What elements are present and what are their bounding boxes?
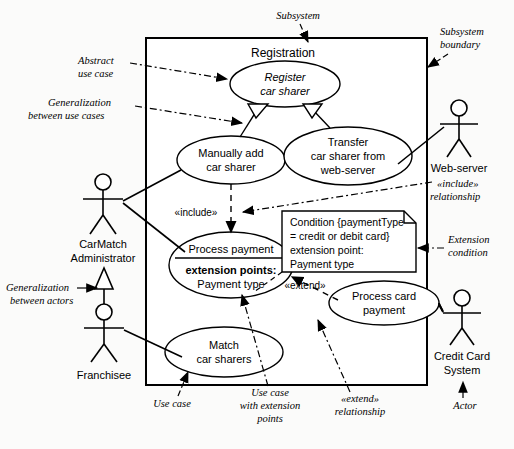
annotation-line-1: Actor: [452, 400, 477, 411]
use-case-label-line-1: Transfer: [328, 136, 369, 148]
annotation-line-1: Generalization: [48, 97, 111, 108]
annotation-line-2: relationship: [430, 191, 480, 202]
actor-head: [96, 304, 112, 320]
actor-leg-left: [450, 328, 462, 345]
actor-label-line-1: Franchisee: [77, 369, 131, 381]
actor-leg-right: [462, 328, 474, 345]
actor-carmatch-administrator[interactable]: CarMatch Administrator: [71, 174, 136, 264]
annotation-line-1: Use case: [153, 398, 191, 409]
actor-label-line-2: Administrator: [71, 252, 136, 264]
actor-credit-card-system[interactable]: Credit Card System: [434, 290, 490, 376]
usecase-diagram-canvas: Registration Register car sharer Manuall…: [0, 0, 514, 449]
actor-web-server[interactable]: Web-server: [431, 100, 488, 174]
actor-leg-left: [447, 139, 459, 157]
use-case-label-line-1: Process card: [352, 290, 416, 302]
annotation-line-1: Generalization: [6, 282, 69, 293]
annotation-line-1: Use case: [251, 387, 289, 398]
diagram-svg: Registration Register car sharer Manuall…: [0, 0, 514, 449]
use-case-match-car-sharers[interactable]: Match car sharers: [165, 327, 283, 377]
actor-label-line-2: System: [444, 364, 481, 376]
annotation-line-1: «extend»: [341, 393, 379, 404]
annotation-line-2: relationship: [335, 406, 385, 417]
use-case-label-line-1: Manually add: [198, 147, 263, 159]
actor-head: [451, 100, 467, 116]
actor-label-line-1: CarMatch: [79, 238, 127, 250]
use-case-label-line-2: payment: [363, 304, 405, 316]
use-case-process-payment[interactable]: Process payment extension points: Paymen…: [169, 232, 293, 298]
include-stereotype-label: «include»: [175, 207, 218, 218]
use-case-label-line-2: car sharer: [260, 85, 311, 97]
annotation-line-1: Subsystem: [276, 10, 320, 21]
generalization-triangle: [95, 268, 113, 289]
extension-points-value: Payment type: [197, 278, 264, 290]
note-line-4: Payment type: [290, 258, 354, 270]
use-case-label-line-1: Register: [265, 71, 307, 83]
actor-leg-right: [103, 215, 116, 234]
actor-label-line-1: Web-server: [431, 162, 488, 174]
annotation-line-1: «include»: [437, 178, 478, 189]
actor-leg-right: [459, 139, 471, 157]
annotation-line-2: with extension: [240, 400, 300, 411]
actor-franchisee[interactable]: Franchisee: [77, 304, 131, 381]
annotation-line-1: Subsystem: [440, 26, 484, 37]
annotation-extension-condition: Extension condition: [418, 234, 489, 258]
use-case-label-line-1: Process payment: [189, 243, 274, 255]
use-case-process-card-payment[interactable]: Process card payment: [329, 281, 439, 325]
annotation-leader-line: [428, 54, 448, 67]
actor-label-line-1: Credit Card: [434, 350, 490, 362]
note-line-2: = credit or debit card}: [290, 230, 390, 242]
annotation-line-3: points: [256, 413, 283, 424]
annotation-line-2: boundary: [440, 39, 481, 50]
actor-head: [95, 174, 111, 190]
extend-stereotype-label: «extend»: [284, 280, 326, 291]
use-case-label-line-2: car sharers: [196, 353, 252, 365]
extension-points-heading: extension points:: [185, 264, 276, 276]
actor-leg-left: [91, 344, 104, 362]
annotation-line-1: Abstract: [77, 55, 115, 66]
use-case-label-line-2: car sharer from: [311, 150, 386, 162]
annotation-actor: Actor: [452, 382, 477, 411]
annotation-line-2: between use cases: [28, 110, 104, 121]
annotation-line-1: Extension: [447, 234, 489, 245]
use-case-label-line-3: web-server: [320, 164, 376, 176]
annotation-line-2: condition: [448, 247, 488, 258]
annotation-line-2: use case: [78, 68, 114, 79]
note-line-3: extension point:: [290, 244, 364, 256]
use-case-transfer-car-sharer-from-web-server[interactable]: Transfer car sharer from web-server: [284, 127, 412, 185]
subsystem-label: Registration: [251, 46, 315, 60]
annotation-generalization-between-actors: Generalization between actors: [6, 282, 97, 306]
actor-head: [454, 290, 470, 306]
use-case-label-line-1: Match: [209, 339, 239, 351]
use-case-register-car-sharer[interactable]: Register car sharer: [230, 61, 340, 107]
use-case-label-line-2: car sharer: [206, 161, 256, 173]
annotation-line-2: between actors: [10, 295, 73, 306]
use-case-manually-add-car-sharer[interactable]: Manually add car sharer: [177, 136, 285, 184]
actor-leg-right: [104, 344, 117, 362]
annotation-subsystem-boundary: Subsystem boundary: [428, 26, 484, 67]
note-line-1: Condition {paymentType: [290, 216, 404, 228]
generalization-franchisee-to-admin: [95, 268, 113, 304]
actor-leg-left: [90, 215, 103, 234]
